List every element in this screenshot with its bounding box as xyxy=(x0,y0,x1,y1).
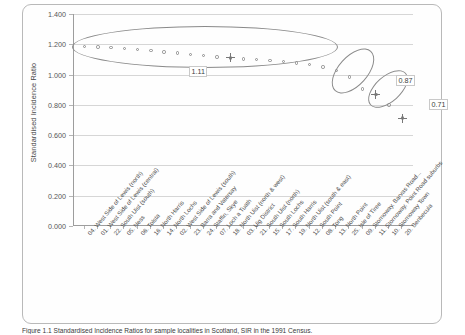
gridline xyxy=(74,165,413,166)
standardised-incidence-ratio-chart: Standardised Incidence Ratio 0.0000.2000… xyxy=(0,0,465,335)
callout-1-11: 1.11 xyxy=(189,66,207,77)
callout-0-87: 0.87 xyxy=(396,75,415,86)
callout-0-71: 0.71 xyxy=(429,99,448,110)
data-point xyxy=(308,63,311,66)
figure-caption: Figure 1.1 Standardised Incidence Ratios… xyxy=(22,327,452,334)
gridline xyxy=(74,14,413,15)
y-tick-label: 1.200 xyxy=(30,40,66,49)
y-tick-label: 0.000 xyxy=(30,222,66,231)
x-tick-mark xyxy=(84,226,85,229)
y-tick-label: 1.000 xyxy=(30,71,66,80)
y-tick-label: 0.400 xyxy=(30,161,66,170)
data-point xyxy=(321,65,324,68)
gridline xyxy=(74,105,413,106)
y-tick-label: 0.600 xyxy=(30,131,66,140)
gridline xyxy=(74,135,413,136)
y-tick-label: 1.400 xyxy=(30,10,66,19)
data-point xyxy=(361,87,364,90)
y-tick-label: 0.800 xyxy=(30,101,66,110)
y-tick-label: 0.200 xyxy=(30,192,66,201)
cluster-centre-marker xyxy=(398,114,407,123)
y-tick-mark xyxy=(69,226,73,227)
cluster-ellipse-main xyxy=(72,26,338,68)
